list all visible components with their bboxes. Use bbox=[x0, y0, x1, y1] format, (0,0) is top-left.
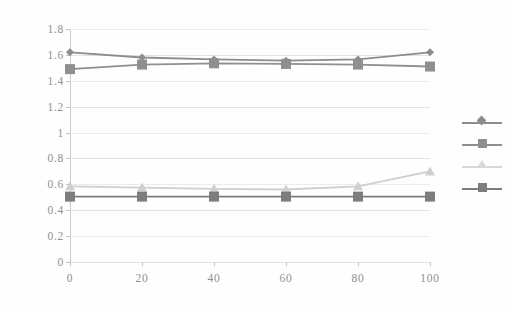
x-axis-tick-label: 20 bbox=[120, 272, 164, 284]
y-axis-tick bbox=[66, 107, 70, 108]
y-axis-tick-label: 1 bbox=[22, 127, 64, 139]
x-axis-tick bbox=[430, 262, 431, 266]
y-axis-tick-label: 1.6 bbox=[22, 49, 64, 61]
gridline bbox=[70, 158, 430, 159]
legend-item[interactable] bbox=[462, 156, 506, 178]
gridline bbox=[70, 133, 430, 134]
y-axis-tick-label: 0.2 bbox=[22, 230, 64, 242]
x-axis-tick-label: 80 bbox=[336, 272, 380, 284]
x-axis-tick-label: 60 bbox=[264, 272, 308, 284]
triangle-marker bbox=[477, 160, 487, 168]
x-axis-tick bbox=[358, 262, 359, 266]
x-axis-tick-label: 40 bbox=[192, 272, 236, 284]
legend-item[interactable] bbox=[462, 134, 506, 156]
y-axis-tick-label: 1.4 bbox=[22, 75, 64, 87]
x-axis-tick bbox=[286, 262, 287, 266]
gridline bbox=[70, 236, 430, 237]
y-axis-tick-label: 0.4 bbox=[22, 204, 64, 216]
gridline bbox=[70, 107, 430, 108]
y-axis-tick bbox=[66, 81, 70, 82]
y-axis-tick bbox=[66, 210, 70, 211]
y-axis-tick-label: 0 bbox=[22, 256, 64, 268]
x-axis-tick bbox=[142, 262, 143, 266]
gridline bbox=[70, 184, 430, 185]
gridline bbox=[70, 29, 430, 30]
y-axis-tick-label: 1.2 bbox=[22, 101, 64, 113]
x-axis-tick bbox=[70, 262, 71, 266]
chart-screenshot: 00.20.40.60.811.21.41.61.8 020406080100 bbox=[0, 0, 510, 310]
gridline bbox=[70, 210, 430, 211]
y-axis-tick bbox=[66, 158, 70, 159]
square-marker bbox=[478, 183, 487, 192]
y-axis-tick bbox=[66, 55, 70, 56]
y-axis-tick-label: 0.8 bbox=[22, 152, 64, 164]
gridline bbox=[70, 81, 430, 82]
gridline bbox=[70, 262, 430, 263]
x-axis-tick-label: 100 bbox=[408, 272, 452, 284]
y-axis-tick bbox=[66, 236, 70, 237]
plot-area bbox=[70, 29, 430, 262]
x-axis-tick-label: 0 bbox=[48, 272, 92, 284]
y-axis-tick-label: 0.6 bbox=[22, 178, 64, 190]
y-axis-tick-label: 1.8 bbox=[22, 23, 64, 35]
gridline bbox=[70, 55, 430, 56]
legend-item[interactable] bbox=[462, 178, 506, 200]
y-axis-tick bbox=[66, 184, 70, 185]
legend-item[interactable] bbox=[462, 112, 506, 134]
chart-legend bbox=[462, 112, 506, 200]
y-axis-tick bbox=[66, 133, 70, 134]
y-axis-tick bbox=[66, 29, 70, 30]
square-marker bbox=[478, 139, 487, 148]
x-axis-tick bbox=[214, 262, 215, 266]
